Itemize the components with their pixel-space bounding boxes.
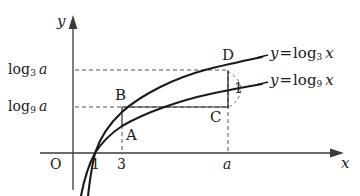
curve-label-log3-fn: log (293, 44, 316, 62)
x-axis-label: x (341, 156, 349, 171)
point-label-b: B (115, 88, 126, 103)
curve-label-log9-fn: log (293, 71, 316, 89)
y-tick-log3-a: log3a (8, 62, 47, 78)
origin-label: O (50, 157, 61, 171)
x-axis (40, 149, 344, 158)
curve-log3 (88, 57, 262, 196)
curve-label-log3-arg: x (322, 44, 333, 62)
y-tick-log9-fn: log (8, 98, 30, 114)
point-label-c: C (210, 110, 221, 125)
curve-label-log3-eq: = (278, 44, 293, 62)
point-label-a: A (126, 128, 137, 143)
x-tick-1: 1 (91, 157, 100, 171)
x-tick-a: a (223, 157, 231, 171)
point-label-d: D (222, 48, 234, 63)
y-tick-log9-a: log9a (8, 99, 47, 115)
y-tick-log3-fn: log (8, 61, 30, 77)
logarithm-curves-figure: y x O 1 3 a log3a log9a y=log3x y=log9x … (0, 0, 360, 196)
curve-label-log9-arg: x (322, 71, 333, 89)
segment-length-label: 1 (234, 81, 243, 95)
curve-label-log9-eq: = (278, 71, 293, 89)
curve-log9 (81, 84, 262, 196)
y-axis-label: y (57, 14, 65, 29)
x-tick-3: 3 (117, 157, 126, 171)
y-tick-log3-arg: a (36, 61, 47, 77)
y-axis (69, 15, 78, 190)
y-tick-log9-arg: a (36, 98, 47, 114)
curve-label-log3: y=log3x (270, 46, 334, 62)
curve-label-log9: y=log9x (270, 73, 334, 89)
